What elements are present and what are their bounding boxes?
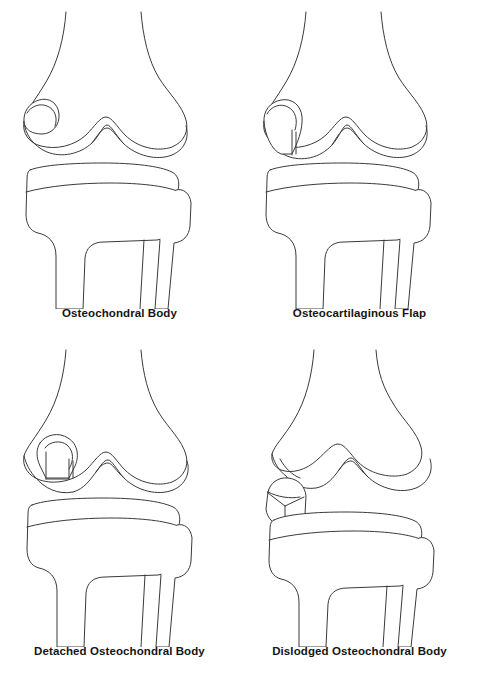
panel-osteocartilaginous-flap: Osteocartilaginous Flap — [240, 4, 479, 342]
tibia-fibula-group — [27, 498, 192, 647]
panel-osteochondral-body: Osteochondral Body — [0, 4, 239, 342]
knee-illustration — [240, 342, 479, 647]
femur-group — [24, 12, 188, 158]
tibial-shaft-medial-edge — [141, 575, 145, 647]
intercondylar-notch — [96, 463, 124, 478]
tibial-shaft-medial-edge — [140, 240, 144, 309]
panel-caption: Osteochondral Body — [0, 307, 239, 319]
tibial-shaft-medial-edge — [383, 586, 387, 647]
tibia-fibula-group — [269, 512, 434, 647]
tibia-outline — [26, 163, 179, 309]
panel-detached-osteochondral-body: Detached Osteochondral Body — [0, 342, 239, 677]
tibia-fibula-group — [266, 163, 431, 309]
knee-illustration — [240, 4, 479, 309]
intercondylar-notch — [92, 128, 123, 143]
lesion-osteocartilaginous-flap — [264, 100, 302, 155]
panel-dislodged-osteochondral-body: Dislodged Osteochondral Body — [240, 342, 479, 677]
tibia-outline — [266, 163, 419, 309]
detached-body-outline — [37, 435, 77, 478]
femur-group — [272, 350, 431, 491]
panel-caption: Dislodged Osteochondral Body — [240, 645, 479, 657]
tibia-outline — [269, 512, 422, 647]
tibial-shaft-medial-edge — [380, 240, 384, 309]
knee-illustration — [0, 342, 239, 647]
femur-outline — [272, 350, 422, 476]
lesion-osteochondral-body — [24, 99, 59, 134]
tibia-fibula-group — [26, 163, 191, 309]
osteochondritis-dissecans-figure: Osteochondral Body — [0, 0, 479, 677]
knee-illustration — [0, 4, 239, 309]
panel-caption: Detached Osteochondral Body — [0, 645, 239, 657]
lesion-detached-osteochondral-body — [37, 435, 77, 479]
panel-caption: Osteocartilaginous Flap — [240, 307, 479, 319]
